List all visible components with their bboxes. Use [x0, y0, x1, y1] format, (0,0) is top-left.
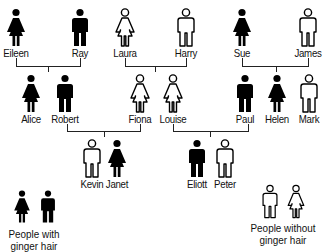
person-eileen: Eileen	[1, 8, 31, 62]
connector-bar	[125, 66, 187, 67]
person-harry: Harry	[171, 8, 201, 62]
person-name: Harry	[155, 47, 217, 59]
person-sue: Sue	[227, 8, 257, 62]
legend-ginger-male-icon	[35, 212, 61, 229]
person-mark: Mark	[294, 74, 324, 128]
legend-ginger-figures	[9, 188, 61, 230]
person-name: Mark	[278, 113, 325, 125]
person-ray: Ray	[65, 8, 95, 62]
legend-non-ginger-line2: ginger hair	[245, 234, 321, 246]
connector-drop	[104, 131, 105, 137]
person-laura: Laura	[110, 8, 140, 62]
family-tree-diagram: EileenRayLauraHarrySueJamesAliceRobertFi…	[0, 0, 325, 252]
connector-bar	[173, 131, 249, 132]
person-name: Louise	[142, 113, 204, 125]
legend-ginger: People with ginger hair	[2, 228, 67, 252]
person-name: Sue	[211, 47, 273, 59]
person-peter: Peter	[210, 139, 240, 193]
connector-drop	[210, 131, 211, 137]
legend-non-ginger: People without ginger hair	[245, 222, 321, 246]
person-name: Janet	[86, 178, 148, 190]
person-name: Robert	[34, 113, 96, 125]
legend-non-ginger-line1: People without	[245, 222, 321, 234]
connector-drop	[155, 66, 156, 72]
person-name: Laura	[94, 47, 156, 59]
person-louise: Louise	[158, 74, 188, 128]
person-name: James	[277, 47, 325, 59]
legend-ginger-line2: ginger hair	[2, 240, 67, 252]
person-name: Eileen	[0, 47, 47, 59]
connector-drop	[48, 66, 49, 72]
person-janet: Janet	[102, 139, 132, 193]
legend-ginger-line1: People with	[2, 228, 67, 240]
legend-non-ginger-figures	[257, 183, 309, 225]
legend-ginger-female-icon	[9, 212, 35, 229]
person-name: Peter	[194, 178, 256, 190]
connector-drop	[276, 66, 277, 72]
person-robert: Robert	[50, 74, 80, 128]
person-james: James	[293, 8, 323, 62]
